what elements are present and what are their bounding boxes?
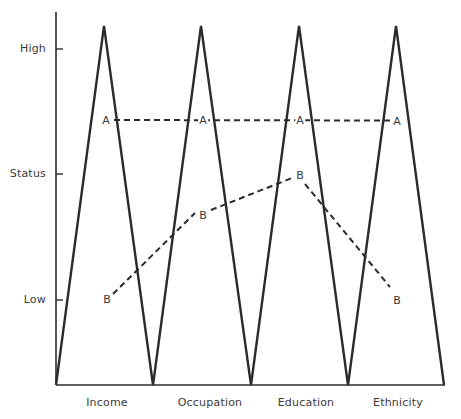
point-a-occupation: A — [198, 115, 208, 126]
y-label-low: Low — [2, 293, 46, 306]
x-label-education: Education — [278, 396, 335, 409]
point-b-occupation: B — [198, 210, 208, 221]
profile-b-line — [113, 213, 195, 294]
x-label-ethnicity: Ethnicity — [373, 396, 423, 409]
profile-a-line — [114, 120, 390, 121]
profile-b-line — [305, 184, 390, 287]
point-a-education: A — [295, 115, 305, 126]
point-a-ethnicity: A — [392, 116, 402, 127]
status-consistency-diagram — [0, 0, 461, 419]
point-b-ethnicity: B — [392, 295, 402, 306]
triangle-zigzag — [56, 26, 444, 385]
point-b-income: B — [102, 294, 112, 305]
y-label-status: Status — [2, 167, 46, 180]
x-label-occupation: Occupation — [178, 396, 243, 409]
point-a-income: A — [101, 115, 111, 126]
x-label-income: Income — [86, 396, 128, 409]
point-b-education: B — [295, 170, 305, 181]
y-label-high: High — [2, 42, 46, 55]
